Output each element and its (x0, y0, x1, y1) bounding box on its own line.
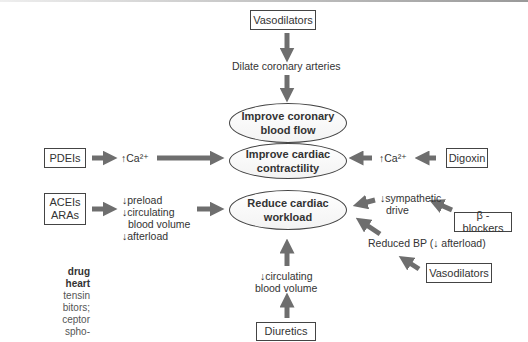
ca-right-text: ↑Ca²⁺ (379, 152, 407, 164)
arrow-bp-to-workload (362, 222, 380, 234)
coronary-line-1: Improve coronary (242, 110, 335, 122)
vasodilators-top-box: Vasodilators (250, 10, 316, 30)
outcome-coronary-blood-flow: Improve coronaryblood flow (229, 103, 347, 143)
aceis-label: ACEIs (49, 196, 80, 208)
circulating-bottom: ↓circulating blood volume (255, 270, 317, 294)
ca-left-text: ↑Ca²⁺ (121, 152, 149, 164)
workload-line-2: workload (264, 211, 312, 223)
vasodilators-top-label: Vasodilators (253, 14, 313, 27)
circulating-left-2: blood volume (122, 218, 190, 230)
sympathetic-effects: ↓sympathetic drive (380, 192, 441, 216)
contractility-line-2: contractility (257, 162, 319, 174)
circulating-left-1: ↓circulating (122, 206, 190, 218)
sympathetic-line-1: ↓sympathetic (380, 192, 441, 204)
digoxin-box: Digoxin (446, 148, 488, 168)
outcome-reduce-workload: Reduce cardiacworkload (229, 190, 347, 230)
beta-blockers-label: β - blockers (455, 209, 511, 235)
sympathetic-line-2: drive (380, 204, 441, 216)
workload-line-1: Reduce cardiac (247, 197, 328, 209)
pdeis-label: PDEIs (49, 152, 80, 165)
beta-blockers-box: β - blockers (454, 212, 512, 232)
outcome-cardiac-contractility: Improve cardiaccontractility (229, 143, 347, 179)
vasodilators-right-box: Vasodilators (426, 263, 492, 283)
digoxin-label: Digoxin (449, 152, 486, 165)
circulating-bottom-1: ↓circulating (255, 270, 317, 282)
aras-label: ARAs (51, 209, 79, 221)
pdeis-box: PDEIs (44, 148, 86, 168)
circulating-bottom-2: blood volume (255, 282, 317, 294)
reduced-bp-text: Reduced BP (↓ afterload) (368, 237, 486, 249)
dilate-coronary-text: Dilate coronary arteries (232, 60, 341, 72)
vasodilators-right-label: Vasodilators (429, 267, 489, 280)
arrow-sympathetic-to-workload (360, 200, 375, 204)
afterload-text: ↓afterload (122, 230, 190, 242)
aceis-aras-box: ACEIsARAs (44, 193, 86, 225)
arrow-vasodilators-to-bp (405, 260, 419, 269)
diuretics-label: Diuretics (265, 325, 308, 338)
coronary-line-2: blood flow (261, 124, 316, 136)
diuretics-box: Diuretics (256, 322, 316, 341)
preload-text: ↓preload (122, 194, 190, 206)
aceis-effects: ↓preload ↓circulating blood volume ↓afte… (122, 194, 190, 242)
contractility-line-1: Improve cardiac (246, 148, 330, 160)
